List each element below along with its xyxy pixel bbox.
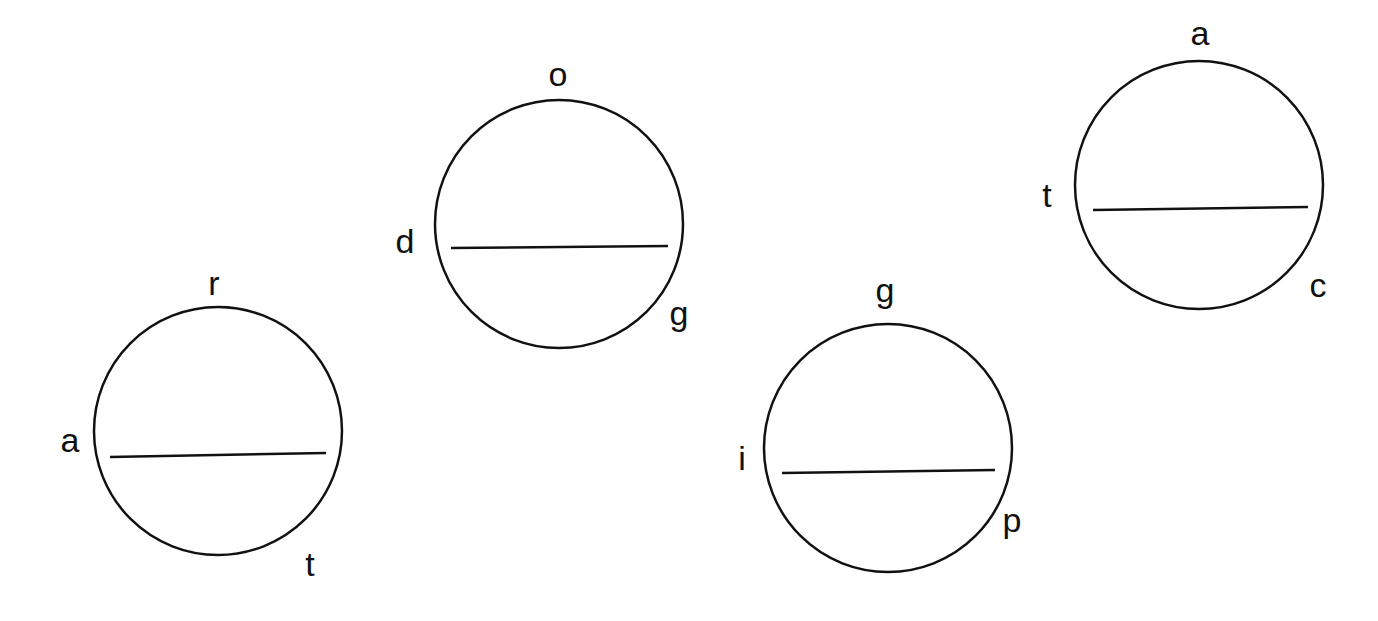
chord-line bbox=[110, 453, 326, 457]
top-label: g bbox=[876, 271, 895, 309]
circle-outline bbox=[764, 324, 1012, 572]
circle-group-4: a t c bbox=[1042, 14, 1326, 309]
circle-group-1: r a t bbox=[61, 264, 342, 583]
chord-line bbox=[782, 470, 995, 473]
bottom-right-label: p bbox=[1003, 501, 1022, 539]
chord-line bbox=[451, 246, 668, 248]
circle-outline bbox=[94, 307, 342, 555]
circle-outline bbox=[1075, 61, 1323, 309]
diagram-canvas: r a t o d g g i p a t c bbox=[0, 0, 1378, 621]
chord-line bbox=[1093, 207, 1308, 210]
top-label: r bbox=[208, 264, 219, 302]
top-label: a bbox=[1191, 14, 1210, 52]
left-label: a bbox=[61, 421, 80, 459]
left-label: i bbox=[738, 439, 746, 477]
bottom-right-label: g bbox=[670, 294, 689, 332]
left-label: t bbox=[1042, 176, 1052, 214]
bottom-right-label: t bbox=[305, 545, 315, 583]
circle-group-3: g i p bbox=[738, 271, 1021, 572]
circle-outline bbox=[435, 100, 683, 348]
circle-group-2: o d g bbox=[396, 55, 689, 348]
left-label: d bbox=[396, 222, 415, 260]
bottom-right-label: c bbox=[1310, 266, 1327, 304]
top-label: o bbox=[549, 55, 568, 93]
